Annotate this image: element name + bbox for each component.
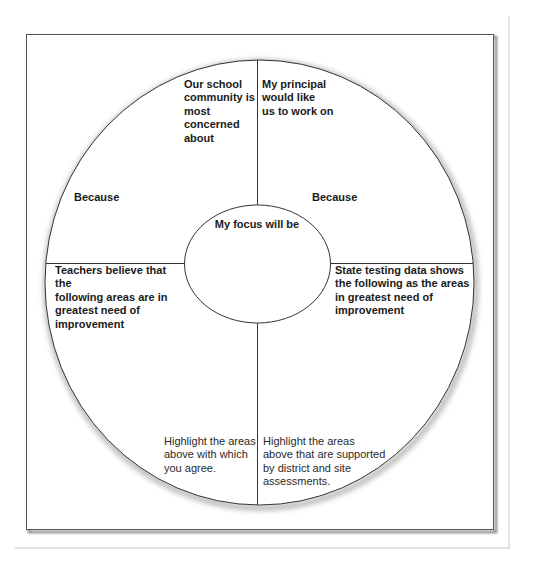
- top-left-prompt: Our school community is most concerned a…: [184, 78, 256, 145]
- top-left-because: Because: [74, 191, 119, 204]
- bottom-right-prompt: State testing data shows the following a…: [335, 264, 475, 318]
- top-right-because: Because: [312, 191, 357, 204]
- bottom-left-instruction: Highlight the areas above with which you…: [164, 435, 256, 475]
- top-right-prompt: My principal would like us to work on: [262, 78, 362, 118]
- center-focus-label: My focus will be: [197, 218, 317, 231]
- bottom-right-instruction: Highlight the areas above that are suppo…: [263, 435, 393, 489]
- bottom-left-prompt: Teachers believe that the following area…: [55, 264, 185, 331]
